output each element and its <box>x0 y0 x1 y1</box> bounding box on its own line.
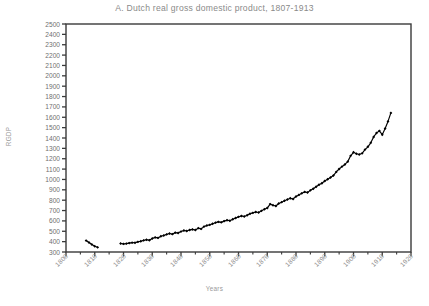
y-tick-label: 1600 <box>26 114 60 121</box>
y-tick-label: 1400 <box>26 135 60 142</box>
y-tick-label: 700 <box>26 207 60 214</box>
y-tick-label: 2500 <box>26 21 60 28</box>
y-tick-label: 1100 <box>26 166 60 173</box>
y-tick-label: 800 <box>26 197 60 204</box>
y-tick-label: 300 <box>26 249 60 256</box>
y-tick-label: 2000 <box>26 72 60 79</box>
y-tick-label: 2400 <box>26 31 60 38</box>
y-tick-label: 1000 <box>26 176 60 183</box>
y-tick-label: 1500 <box>26 124 60 131</box>
y-tick-label: 1200 <box>26 155 60 162</box>
y-tick-label: 2200 <box>26 52 60 59</box>
y-tick-label: 900 <box>26 186 60 193</box>
y-tick-label: 600 <box>26 217 60 224</box>
y-tick-label: 1800 <box>26 93 60 100</box>
y-tick-label: 1900 <box>26 83 60 90</box>
y-tick-label: 1300 <box>26 145 60 152</box>
y-tick-label: 2100 <box>26 62 60 69</box>
y-tick-label: 500 <box>26 228 60 235</box>
chart-figure: A. Dutch real gross domestic product, 18… <box>0 0 429 306</box>
y-tick-label: 2300 <box>26 41 60 48</box>
y-tick-label: 400 <box>26 238 60 245</box>
y-tick-label: 1700 <box>26 103 60 110</box>
